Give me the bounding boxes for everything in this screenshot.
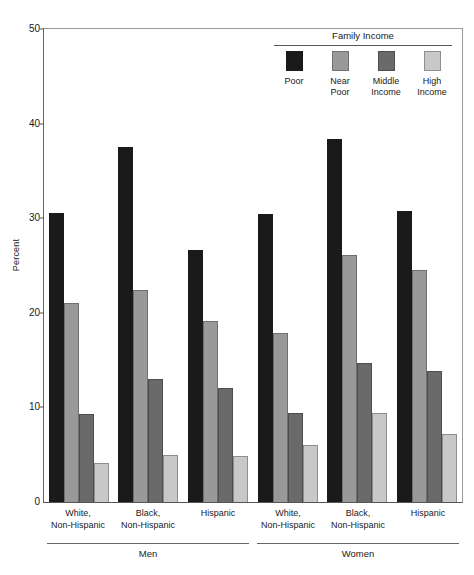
bar-high[interactable] — [442, 434, 457, 502]
legend-swatch-poor — [286, 51, 303, 71]
legend-item-near-poor[interactable]: Near Poor — [318, 51, 362, 97]
x-race-label-black-non-hispanic: Black, Non-Hispanic — [323, 508, 393, 531]
y-tick-label-0: 0 — [34, 497, 40, 507]
sex-block-men — [44, 29, 253, 502]
bar-poor[interactable] — [327, 139, 342, 502]
bar-poor[interactable] — [258, 214, 273, 502]
x-axis: White, Non-HispanicBlack, Non-HispanicHi… — [43, 503, 463, 575]
bar-near-poor[interactable] — [133, 290, 148, 502]
bar-high[interactable] — [94, 463, 109, 502]
race-group-white-non-hispanic — [44, 29, 114, 502]
y-tick-label-30: 30 — [29, 213, 40, 223]
x-race-label-black-non-hispanic: Black, Non-Hispanic — [113, 508, 183, 531]
bar-poor[interactable] — [188, 250, 203, 502]
legend-swatch-near-poor — [332, 51, 349, 71]
bar-near-poor[interactable] — [273, 333, 288, 502]
x-sex-half-women: White, Non-HispanicBlack, Non-HispanicHi… — [253, 503, 463, 575]
legend-items: PoorNear PoorMiddle IncomeHigh Income — [272, 51, 454, 97]
bar-near-poor[interactable] — [203, 321, 218, 502]
legend-label-middle: Middle Income — [371, 76, 401, 97]
bar-middle[interactable] — [79, 414, 94, 502]
bar-poor[interactable] — [49, 213, 64, 502]
x-race-row: White, Non-HispanicBlack, Non-HispanicHi… — [43, 508, 253, 531]
bar-chart: Percent 50403020100 Family Income PoorNe… — [0, 0, 474, 575]
x-race-row: White, Non-HispanicBlack, Non-HispanicHi… — [253, 508, 463, 531]
legend-divider — [274, 45, 452, 46]
y-tick-label-40: 40 — [29, 119, 40, 129]
legend: Family Income PoorNear PoorMiddle Income… — [272, 30, 454, 114]
bar-middle[interactable] — [218, 388, 233, 502]
bar-middle[interactable] — [148, 379, 163, 502]
legend-item-high[interactable]: High Income — [410, 51, 454, 97]
bar-near-poor[interactable] — [64, 303, 79, 502]
legend-label-poor: Poor — [284, 76, 303, 87]
legend-swatch-high — [424, 51, 441, 71]
x-sex-divider — [257, 543, 459, 544]
bar-middle[interactable] — [427, 371, 442, 502]
bar-poor[interactable] — [397, 211, 412, 502]
bar-near-poor[interactable] — [342, 255, 357, 502]
bar-poor[interactable] — [118, 147, 133, 502]
legend-item-middle[interactable]: Middle Income — [364, 51, 408, 97]
legend-label-near-poor: Near Poor — [330, 76, 350, 97]
race-group-black-non-hispanic — [114, 29, 184, 502]
legend-label-high: High Income — [417, 76, 447, 97]
legend-title: Family Income — [272, 30, 454, 41]
x-sex-label-men: Men — [43, 548, 253, 559]
x-sex-label-women: Women — [253, 548, 463, 559]
x-race-label-hispanic: Hispanic — [183, 508, 253, 531]
y-tick-label-20: 20 — [29, 308, 40, 318]
race-group-hispanic — [183, 29, 253, 502]
bar-high[interactable] — [303, 445, 318, 502]
x-race-label-hispanic: Hispanic — [393, 508, 463, 531]
bar-middle[interactable] — [357, 363, 372, 502]
legend-swatch-middle — [378, 51, 395, 71]
x-sex-divider — [47, 543, 249, 544]
legend-item-poor[interactable]: Poor — [272, 51, 316, 97]
bar-high[interactable] — [372, 413, 387, 502]
bar-middle[interactable] — [288, 413, 303, 502]
x-sex-half-men: White, Non-HispanicBlack, Non-HispanicHi… — [43, 503, 253, 575]
bar-high[interactable] — [233, 456, 248, 502]
x-race-label-white-non-hispanic: White, Non-Hispanic — [43, 508, 113, 531]
bar-high[interactable] — [163, 455, 178, 502]
x-race-label-white-non-hispanic: White, Non-Hispanic — [253, 508, 323, 531]
bar-near-poor[interactable] — [412, 270, 427, 502]
y-tick-label-50: 50 — [29, 24, 40, 34]
y-tick-label-10: 10 — [29, 402, 40, 412]
y-axis-title: Percent — [11, 225, 21, 285]
